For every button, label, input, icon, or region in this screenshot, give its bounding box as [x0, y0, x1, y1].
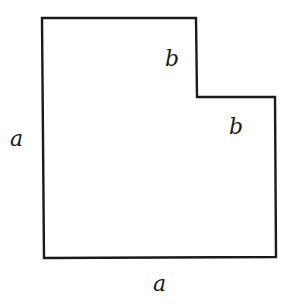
l-shape-diagram: a b b a: [0, 0, 291, 306]
label-left-side-a: a: [10, 126, 23, 151]
label-bottom-side-a: a: [153, 271, 166, 296]
label-notch-horizontal-b: b: [229, 114, 243, 139]
label-notch-vertical-b: b: [165, 46, 179, 71]
